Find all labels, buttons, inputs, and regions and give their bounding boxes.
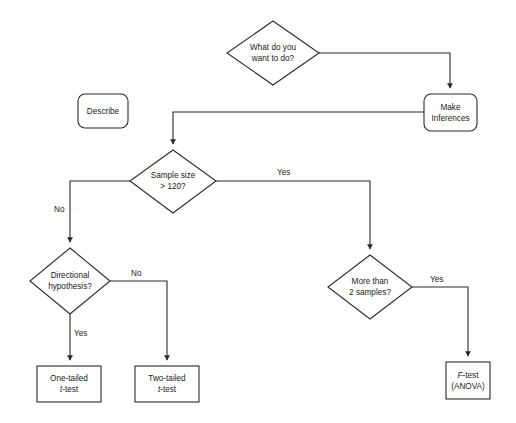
edge-label-sample-size-yes: Yes: [277, 168, 290, 178]
edge-label-directional-yes: Yes: [74, 329, 87, 339]
edge-directional-no: [110, 281, 167, 360]
node-shape-start: [227, 21, 319, 85]
flowchart-canvas: What do you want to do? Describe Make In…: [0, 0, 516, 423]
edge-label-more-samples-yes: Yes: [430, 275, 443, 285]
node-shape-make-inferences: [424, 94, 477, 131]
node-shape-describe: [78, 94, 128, 128]
edge-label-sample-size-no: No: [54, 205, 64, 215]
edge-sample-size-no: [70, 181, 130, 242]
node-shape-two-tailed: [135, 366, 199, 402]
node-shape-more-samples: [328, 255, 412, 319]
node-shape-f-test: [446, 362, 490, 399]
node-shape-one-tailed: [37, 366, 101, 402]
edge-start-to-make-inferences: [319, 53, 450, 88]
edge-label-directional-no: No: [131, 269, 141, 279]
node-shape-directional: [30, 248, 110, 314]
edge-sample-size-yes: [216, 181, 370, 249]
edge-more-samples-yes: [412, 287, 468, 356]
flowchart-graphics: [0, 0, 516, 423]
edge-make-inferences-to-sample-size: [173, 112, 424, 144]
node-shape-sample-size: [130, 150, 216, 213]
